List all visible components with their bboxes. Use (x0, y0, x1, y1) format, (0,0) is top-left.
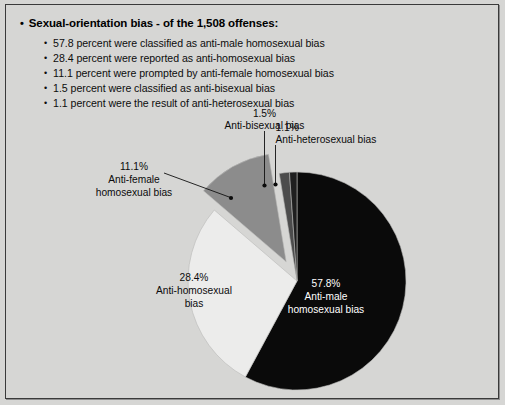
callout-dots (229, 182, 278, 200)
callout-leaders (164, 131, 276, 198)
pie-slice-anti-bisexual (279, 172, 297, 281)
pie-slice-anti-homosexual (188, 210, 297, 377)
list-item-text: 11.1 percent were prompted by anti-femal… (53, 66, 334, 81)
slice-label-name-line1-anti-female: Anti-female (108, 174, 160, 185)
bullet-glyph-icon: • (44, 51, 47, 66)
callout-dot-anti-bisexual (262, 183, 266, 187)
list-item: • 1.1 percent were the result of anti-he… (44, 96, 480, 111)
pie-slice-anti-female-homosexual (203, 154, 286, 262)
bullet-glyph-icon: • (44, 81, 47, 96)
list-header-text: Sexual-orientation bias - of the 1,508 o… (29, 15, 279, 31)
slice-label-name-line1-anti-male: Anti-male (304, 291, 347, 302)
list-header: • Sexual-orientation bias - of the 1,508… (20, 15, 480, 31)
bullet-glyph-icon: • (44, 96, 47, 111)
list-item-text: 1.5 percent were classified as anti-bise… (53, 81, 275, 96)
slice-label-name-line2-anti-male: homosexual bias (288, 304, 364, 315)
list-item: • 11.1 percent were prompted by anti-fem… (44, 66, 480, 81)
list-item-text: 1.1 percent were the result of anti-hete… (53, 96, 294, 111)
callout-dot-anti-heterosexual (273, 182, 277, 186)
slice-label-percent-anti-heterosexual: 1.1% (276, 122, 299, 133)
slice-label-name-anti-heterosexual: Anti-heterosexual bias (276, 134, 377, 145)
pie-slices (188, 154, 406, 390)
leader-line-anti-female (164, 173, 231, 198)
bullet-glyph-icon: • (20, 15, 24, 31)
slice-label-name-anti-bisexual: Anti-bisexual bias (225, 120, 305, 131)
list-items: • 57.8 percent were classified as anti-m… (44, 36, 480, 111)
list-item: • 57.8 percent were classified as anti-m… (44, 36, 480, 51)
slice-label-percent-anti-male: 57.8% (312, 278, 341, 289)
slice-label-name-line2-anti-female: homosexual bias (96, 187, 172, 198)
bullet-glyph-icon: • (44, 66, 47, 81)
list-item: • 1.5 percent were classified as anti-bi… (44, 81, 480, 96)
pie-slice-anti-male-homosexual (245, 172, 406, 390)
bullet-list: • Sexual-orientation bias - of the 1,508… (20, 15, 480, 111)
slice-label-percent-anti-female: 11.1% (120, 161, 148, 172)
figure-frame: • Sexual-orientation bias - of the 1,508… (5, 4, 499, 399)
list-item-text: 28.4 percent were reported as anti-homos… (53, 51, 295, 66)
slice-label-percent-anti-homosexual: 28.4% (180, 272, 209, 283)
callout-dot-anti-female (229, 196, 233, 200)
bullet-glyph-icon: • (44, 36, 47, 51)
pie-slice-anti-heterosexual (289, 172, 297, 281)
list-item: • 28.4 percent were reported as anti-hom… (44, 51, 480, 66)
slice-label-name-line2-anti-homosexual: bias (185, 298, 204, 309)
list-item-text: 57.8 percent were classified as anti-mal… (53, 36, 325, 51)
slice-label-name-line1-anti-homosexual: Anti-homosexual (156, 285, 232, 296)
